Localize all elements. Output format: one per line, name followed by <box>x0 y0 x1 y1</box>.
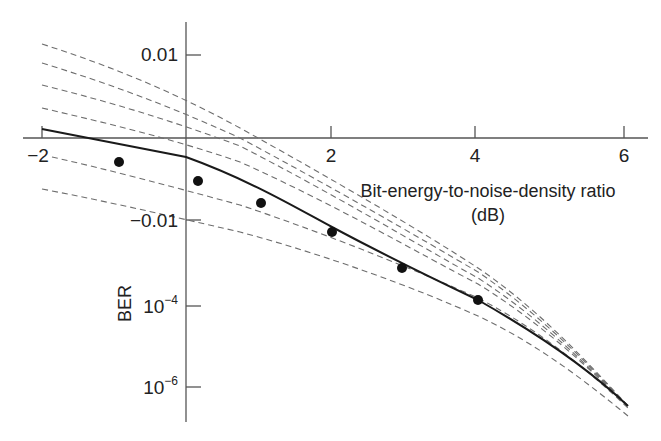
data-point <box>114 157 124 167</box>
y-tick-base: −0.01 <box>130 210 178 231</box>
x-tick-label: −2 <box>27 146 49 165</box>
data-markers <box>114 157 483 305</box>
dashed-curve-3 <box>42 85 628 406</box>
y-axis-label: BER <box>116 285 134 322</box>
x-axis-label-line1: Bit-energy-to-noise-density ratio <box>338 182 638 200</box>
data-point <box>193 176 203 186</box>
x-axis-label-line2: (dB) <box>338 206 638 224</box>
y-tick-base: 10 <box>143 296 164 317</box>
x-tick-label: 6 <box>619 146 630 165</box>
data-point <box>473 295 483 305</box>
y-tick-exponent: −6 <box>164 374 178 388</box>
y-tick-base: 0.01 <box>141 44 178 65</box>
x-tick-label: 2 <box>326 146 337 165</box>
solid-curve <box>42 129 628 406</box>
x-tick-value: 2 <box>38 145 49 166</box>
data-point <box>327 227 337 237</box>
y-tick-label: 10−4 <box>143 296 178 316</box>
y-tick-base: 10 <box>143 377 164 398</box>
y-tick-label: −0.01 <box>130 211 178 230</box>
y-tick-label: 10−6 <box>143 377 178 397</box>
data-point <box>397 263 407 273</box>
x-tick-label: 4 <box>470 146 481 165</box>
y-tick-label: 0.01 <box>141 45 178 64</box>
y-tick-exponent: −4 <box>164 293 178 307</box>
data-point <box>256 198 266 208</box>
